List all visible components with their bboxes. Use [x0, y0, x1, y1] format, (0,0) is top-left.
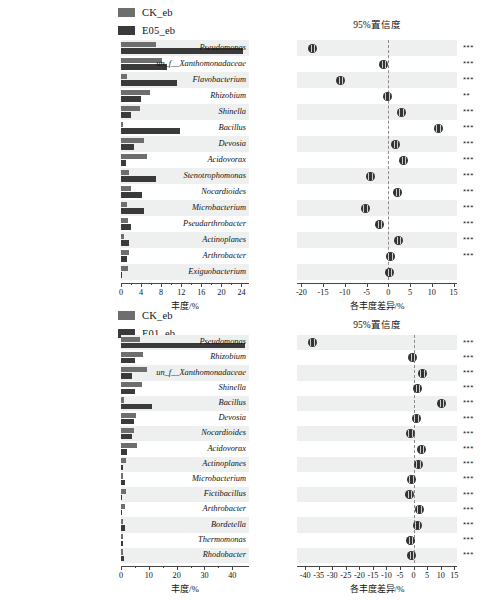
chart-panel-top: CK_ebE05_ebPseudomonasun_f__Xanthomonada…: [0, 0, 492, 305]
taxon-label: Fictibacillus: [130, 489, 246, 499]
confidence-title: 95%置信度: [257, 317, 492, 331]
axis-tick: [181, 283, 182, 287]
abundance-bar: [121, 266, 128, 272]
ci-whisker: [368, 173, 369, 180]
taxon-label: Shinella: [130, 107, 246, 117]
abundance-bar: [121, 240, 129, 246]
axis-tick: [221, 283, 222, 287]
row-stripe: [297, 335, 457, 350]
ci-dot: [407, 475, 416, 484]
significance-marker: ***: [463, 474, 474, 483]
abundance-bar: [121, 534, 123, 539]
significance-marker: ***: [463, 550, 474, 559]
abundance-bar: [121, 256, 127, 262]
taxon-label: Microbacterium: [130, 203, 246, 213]
significance-marker: ***: [463, 107, 474, 116]
ci-whisker: [416, 461, 417, 468]
axis-tick: [388, 283, 389, 287]
ci-whisker: [409, 537, 410, 544]
confidence-subplot: 95%置信度**********************************…: [250, 305, 492, 610]
abundance-subplot: Pseudomonasun_f__XanthomonadaceaeFlavoba…: [0, 0, 250, 305]
ci-whisker: [382, 61, 383, 68]
difference-axis-line: [297, 283, 457, 284]
ci-whisker: [421, 506, 422, 513]
abundance-bar: [121, 525, 125, 530]
significance-marker: ***: [463, 43, 474, 52]
ci-whisker: [417, 506, 418, 513]
axis-minor-tick: [135, 566, 136, 568]
ci-whisker: [408, 430, 409, 437]
ci-dot: [379, 60, 388, 69]
abundance-bar: [121, 480, 125, 485]
abundance-bar: [121, 465, 123, 470]
row-stripe: [297, 264, 457, 280]
significance-marker: ***: [463, 251, 474, 260]
significance-marker: ***: [463, 444, 474, 453]
abundance-subplot: PseudomonasRhizobiumun_f__Xanthomonadace…: [0, 305, 250, 610]
confidence-plot-area: [297, 335, 457, 563]
ci-whisker: [409, 476, 410, 483]
ci-dot: [437, 399, 446, 408]
abundance-bar: [121, 489, 126, 494]
ci-dot: [308, 338, 317, 347]
axis-minor-tick: [131, 283, 132, 285]
ci-whisker: [367, 205, 368, 212]
ci-whisker: [413, 476, 414, 483]
ci-dot: [308, 44, 317, 53]
ci-whisker: [342, 77, 343, 84]
ci-whisker: [363, 205, 364, 212]
axis-tick-label: 15: [441, 571, 467, 580]
significance-marker: ***: [463, 155, 474, 164]
axis-minor-tick: [191, 283, 192, 285]
abundance-bar: [121, 170, 129, 176]
ci-whisker: [416, 385, 417, 392]
taxon-label: Stenotrophomonas: [130, 171, 246, 181]
ci-whisker: [419, 522, 420, 529]
taxon-label: Nocardioides: [130, 428, 246, 438]
taxon-label: Bacillus: [130, 123, 246, 133]
taxon-label: Acidovorax: [130, 444, 246, 454]
ci-dot: [414, 460, 423, 469]
row-stripe: [297, 365, 457, 380]
significance-marker: ***: [463, 383, 474, 392]
significance-marker: ***: [463, 219, 474, 228]
axis-tick: [241, 283, 242, 287]
ci-dot: [417, 445, 426, 454]
ci-whisker: [411, 491, 412, 498]
significance-marker: ***: [463, 59, 474, 68]
axis-tick: [427, 566, 428, 570]
significance-marker: ***: [463, 520, 474, 529]
ci-whisker: [311, 45, 312, 52]
ci-whisker: [392, 253, 393, 260]
axis-tick: [332, 566, 333, 570]
axis-tick: [149, 566, 150, 570]
axis-tick-label: 0: [107, 571, 135, 580]
ci-whisker: [402, 157, 403, 164]
axis-tick: [232, 566, 233, 570]
ci-whisker: [388, 269, 389, 276]
ci-dot: [412, 414, 421, 423]
significance-marker: ***: [463, 123, 474, 132]
axis-minor-tick: [171, 283, 172, 285]
row-stripe: [297, 232, 457, 248]
ci-dot: [415, 505, 424, 514]
ci-dot: [413, 521, 422, 530]
abundance-bar: [121, 160, 126, 166]
ci-whisker: [420, 370, 421, 377]
axis-tick: [367, 283, 368, 287]
significance-marker: ***: [463, 414, 474, 423]
taxon-label: Pseudarthrobacter: [130, 219, 246, 229]
axis-tick: [386, 566, 387, 570]
taxon-label: Flavobacterium: [130, 75, 246, 85]
taxon-label: Rhizobium: [130, 352, 246, 362]
ci-whisker: [412, 537, 413, 544]
axis-tick: [121, 566, 122, 570]
axis-tick: [121, 283, 122, 287]
ci-dot: [375, 220, 384, 229]
abundance-bar: [121, 449, 127, 454]
axis-tick-label: 10: [135, 571, 163, 580]
ci-dot: [383, 92, 392, 101]
row-stripe: [297, 104, 457, 120]
ci-dot: [391, 140, 400, 149]
ci-whisker: [414, 415, 415, 422]
